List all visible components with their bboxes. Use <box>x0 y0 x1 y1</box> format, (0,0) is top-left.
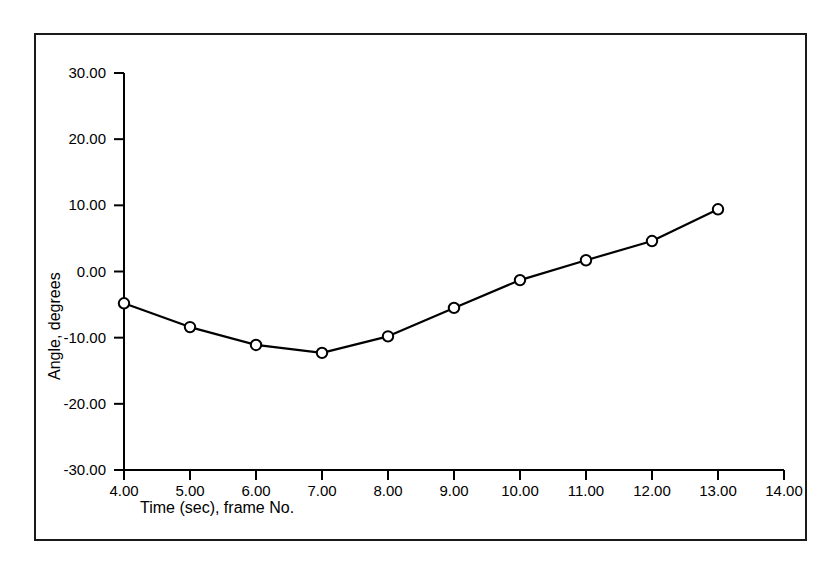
chart-plot: 30.0020.0010.000.00-10.00-20.00-30.00 4.… <box>0 0 840 588</box>
data-markers <box>119 204 723 358</box>
y-tick-label-3: 0.00 <box>77 263 106 280</box>
y-axis-group: 30.0020.0010.000.00-10.00-20.00-30.00 <box>63 64 124 478</box>
data-point-0 <box>119 298 129 308</box>
data-line-angle <box>124 209 718 353</box>
y-axis-title: Angle, degrees <box>46 272 63 380</box>
data-point-5 <box>449 303 459 313</box>
data-point-3 <box>317 348 327 358</box>
x-tick-label-7: 11.00 <box>568 482 604 499</box>
data-point-1 <box>185 322 195 332</box>
data-point-7 <box>581 255 591 265</box>
y-tick-label-2: 10.00 <box>68 196 106 213</box>
data-point-4 <box>383 331 393 341</box>
y-tick-label-1: 20.00 <box>68 130 106 147</box>
y-tick-label-4: -10.00 <box>63 329 106 346</box>
x-axis-group: 4.005.006.007.008.009.0010.0011.0012.001… <box>109 470 802 499</box>
data-point-6 <box>515 275 525 285</box>
x-tick-label-6: 10.00 <box>501 482 539 499</box>
data-series-group <box>119 204 723 358</box>
x-tick-label-1: 5.00 <box>175 482 204 499</box>
x-tick-label-10: 14.00 <box>765 482 803 499</box>
x-tick-label-4: 8.00 <box>373 482 402 499</box>
x-tick-label-8: 12.00 <box>633 482 671 499</box>
x-tick-label-9: 13.00 <box>699 482 737 499</box>
y-tick-label-6: -30.00 <box>63 461 106 478</box>
x-tick-label-3: 7.00 <box>307 482 336 499</box>
data-point-2 <box>251 340 261 350</box>
figure-container: 30.0020.0010.000.00-10.00-20.00-30.00 4.… <box>0 0 840 588</box>
y-axis-ticks <box>114 73 124 470</box>
data-point-8 <box>647 236 657 246</box>
x-axis-title: Time (sec), frame No. <box>140 499 294 516</box>
x-tick-label-2: 6.00 <box>241 482 270 499</box>
y-tick-label-5: -20.00 <box>63 395 106 412</box>
data-point-9 <box>713 204 723 214</box>
x-axis-tick-labels: 4.005.006.007.008.009.0010.0011.0012.001… <box>109 482 802 499</box>
x-tick-label-0: 4.00 <box>109 482 138 499</box>
x-tick-label-5: 9.00 <box>439 482 468 499</box>
x-axis-ticks <box>124 470 784 480</box>
y-axis-tick-labels: 30.0020.0010.000.00-10.00-20.00-30.00 <box>63 64 106 478</box>
y-tick-label-0: 30.00 <box>68 64 106 81</box>
